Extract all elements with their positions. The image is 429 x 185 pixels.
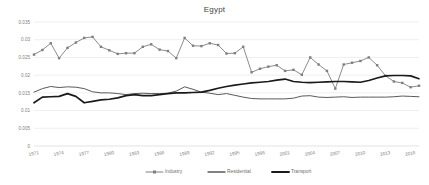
data-point-marker xyxy=(158,48,160,50)
data-point-marker xyxy=(75,41,77,43)
data-point-marker xyxy=(209,42,211,44)
chart-plot: 00.0050.010.0150.020.0250.030.035 197119… xyxy=(0,0,429,185)
x-axis-tick-label: 1995 xyxy=(229,150,240,157)
data-point-marker xyxy=(200,45,202,47)
data-point-marker xyxy=(50,42,52,44)
data-point-marker xyxy=(284,70,286,72)
x-axis-tick-label: 2004 xyxy=(304,150,315,157)
chart-legend[interactable]: IndustryResidentialTransport xyxy=(146,169,312,174)
y-axis-tick-label: 0.005 xyxy=(19,126,31,131)
data-point-marker xyxy=(292,69,294,71)
series-line-industry xyxy=(34,37,419,89)
y-axis-tick-label: 0.02 xyxy=(21,73,30,78)
data-point-marker xyxy=(217,44,219,46)
x-axis-tick-label: 1986 xyxy=(154,150,165,157)
x-axis-tick-label: 1980 xyxy=(103,150,114,157)
data-point-marker xyxy=(234,52,236,54)
data-point-marker xyxy=(108,49,110,51)
data-point-marker xyxy=(301,74,303,76)
data-point-marker xyxy=(150,43,152,45)
x-axis-tick-label: 2016 xyxy=(405,150,416,157)
x-axis-tick-label: 1989 xyxy=(179,150,190,157)
x-axis-tick-label: 2013 xyxy=(380,150,391,157)
series-line-transport xyxy=(34,76,419,103)
data-point-marker xyxy=(242,46,244,48)
y-axis-tick-labels: 00.0050.010.0150.020.0250.030.035 xyxy=(19,20,31,149)
x-axis-tick-label: 2007 xyxy=(329,150,340,157)
data-point-marker xyxy=(250,71,252,73)
data-point-marker xyxy=(192,45,194,47)
y-axis-tick-label: 0.01 xyxy=(21,108,30,113)
data-point-marker xyxy=(409,86,411,88)
x-axis-tick-label: 1971 xyxy=(28,150,39,157)
data-point-marker xyxy=(91,36,93,38)
data-point-marker xyxy=(326,70,328,72)
data-point-marker xyxy=(317,63,319,65)
x-axis-tick-labels: 1971197419771980198319861989199219951998… xyxy=(28,150,416,157)
data-point-marker xyxy=(225,52,227,54)
data-point-marker xyxy=(167,50,169,52)
y-axis-tick-label: 0.025 xyxy=(19,55,31,60)
data-point-marker xyxy=(58,57,60,59)
x-axis-tick-label: 1992 xyxy=(204,150,215,157)
data-point-marker xyxy=(276,64,278,66)
data-point-marker xyxy=(100,46,102,48)
data-point-marker xyxy=(41,49,43,51)
y-axis-tick-label: 0 xyxy=(27,144,30,149)
gridlines xyxy=(34,22,419,146)
data-point-marker xyxy=(33,53,35,55)
data-point-marker xyxy=(133,52,135,54)
data-point-marker xyxy=(351,62,353,64)
legend-label-residential[interactable]: Residential xyxy=(227,169,251,174)
legend-marker-icon xyxy=(153,171,156,174)
data-point-marker xyxy=(401,82,403,84)
data-point-marker xyxy=(259,68,261,70)
data-point-marker xyxy=(359,60,361,62)
data-point-marker xyxy=(267,65,269,67)
data-point-marker xyxy=(83,37,85,39)
data-point-marker xyxy=(183,37,185,39)
data-point-marker xyxy=(334,87,336,89)
x-axis-tick-label: 1974 xyxy=(53,150,64,157)
x-axis-tick-label: 1977 xyxy=(78,150,89,157)
data-point-marker xyxy=(376,64,378,66)
x-axis-tick-label: 2001 xyxy=(279,150,290,157)
data-point-marker xyxy=(342,63,344,65)
data-point-marker xyxy=(66,47,68,49)
data-point-marker xyxy=(116,53,118,55)
data-point-marker xyxy=(125,52,127,54)
x-axis-tick-label: 2010 xyxy=(355,150,366,157)
x-axis-tick-label: 1983 xyxy=(129,150,140,157)
y-axis-tick-label: 0.03 xyxy=(21,37,30,42)
data-point-marker xyxy=(418,85,420,87)
y-axis-tick-label: 0.015 xyxy=(19,91,31,96)
y-axis-tick-label: 0.035 xyxy=(19,20,31,25)
chart-container: Egypt 00.0050.010.0150.020.0250.030.035 … xyxy=(0,0,429,185)
data-point-marker xyxy=(175,57,177,59)
data-point-marker xyxy=(309,56,311,58)
x-axis-tick-label: 1998 xyxy=(254,150,265,157)
data-point-marker xyxy=(142,46,144,48)
data-point-marker xyxy=(393,80,395,82)
data-point-marker xyxy=(368,56,370,58)
legend-label-industry[interactable]: Industry xyxy=(165,169,183,174)
legend-label-transport[interactable]: Transport xyxy=(291,169,312,174)
